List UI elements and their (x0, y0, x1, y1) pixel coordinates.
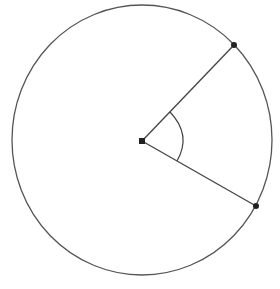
radius-upper (142, 45, 234, 141)
point-upper (231, 42, 237, 48)
point-lower (253, 203, 259, 209)
angle-arc (170, 112, 183, 161)
radius-lower (142, 141, 256, 206)
circle-diagram (0, 0, 280, 289)
center-point (139, 138, 145, 144)
